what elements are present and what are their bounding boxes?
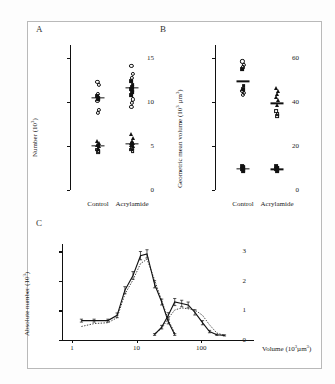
mean-bar: [271, 169, 284, 170]
data-point: [275, 170, 279, 174]
y-axis-tick: [212, 146, 215, 147]
y-axis-tick: [67, 58, 70, 59]
y-axis-tick-label: 0: [296, 186, 300, 194]
y-axis-tick: [212, 58, 215, 59]
data-point: [240, 67, 244, 71]
y-axis-tick-label: 20: [292, 142, 299, 150]
panel-letter-a: A: [36, 24, 43, 34]
data-point: [97, 82, 101, 86]
data-point: [241, 169, 245, 173]
y-axis-line: [215, 45, 216, 190]
category-label: Acrylamide: [115, 200, 148, 208]
y-axis-tick: [67, 146, 70, 147]
data-point: [129, 132, 133, 136]
y-axis-tick-label: 10: [147, 98, 154, 106]
mean-bar: [92, 97, 105, 98]
panel-letter-b: B: [160, 24, 166, 34]
data-point: [131, 149, 135, 153]
data-point: [275, 103, 279, 107]
panel-c-curves: [62, 236, 267, 348]
panel-c-ylabel: Absolute number (103): [22, 272, 31, 336]
category-label: Acrylamide: [260, 200, 293, 208]
series-line: [155, 302, 225, 335]
data-point: [96, 111, 100, 115]
data-point: [241, 93, 245, 97]
y-axis-tick-label: 40: [292, 98, 299, 106]
y-axis-tick: [67, 190, 70, 191]
y-axis-line: [70, 45, 71, 190]
error-bar: [153, 334, 156, 336]
panel-a-plot: Number (103) 051015 ControlAcrylamide: [70, 45, 160, 190]
y-axis-tick: [212, 190, 215, 191]
data-point: [96, 150, 100, 154]
mean-bar: [92, 145, 105, 146]
y-axis-tick: [212, 102, 215, 103]
data-point: [95, 99, 99, 103]
data-point: [129, 104, 133, 108]
panel-b-plot: Geometric mean volume (103 µm3) 0204060 …: [215, 45, 305, 190]
y-axis-tick: [67, 102, 70, 103]
data-point: [276, 98, 280, 102]
panel-c-xlabel: Volume (103µm3): [262, 344, 311, 353]
category-label: Control: [87, 200, 108, 208]
y-axis-tick-label: 60: [292, 54, 299, 62]
y-axis-tick-label: 0: [151, 186, 155, 194]
figure-container: A B C Number (103) 051015 ControlAcrylam…: [0, 0, 335, 384]
panel-b-ylabel: Geometric mean volume (103 µm3): [175, 89, 184, 188]
y-axis-tick-label: 5: [151, 142, 155, 150]
panel-a-ylabel: Number (103): [30, 118, 39, 157]
mean-bar: [237, 81, 250, 82]
mean-bar: [237, 168, 250, 169]
data-point: [129, 64, 133, 68]
panel-letter-c: C: [36, 218, 42, 228]
data-point: [275, 114, 279, 118]
category-label: Control: [232, 200, 253, 208]
mean-bar: [271, 103, 284, 104]
y-axis-tick-label: 15: [147, 54, 154, 62]
mean-bar: [126, 87, 139, 88]
panel-c-plot: Absolute number (103) 0123110100 Volume …: [62, 240, 252, 348]
error-bar: [173, 334, 176, 336]
mean-bar: [126, 143, 139, 144]
